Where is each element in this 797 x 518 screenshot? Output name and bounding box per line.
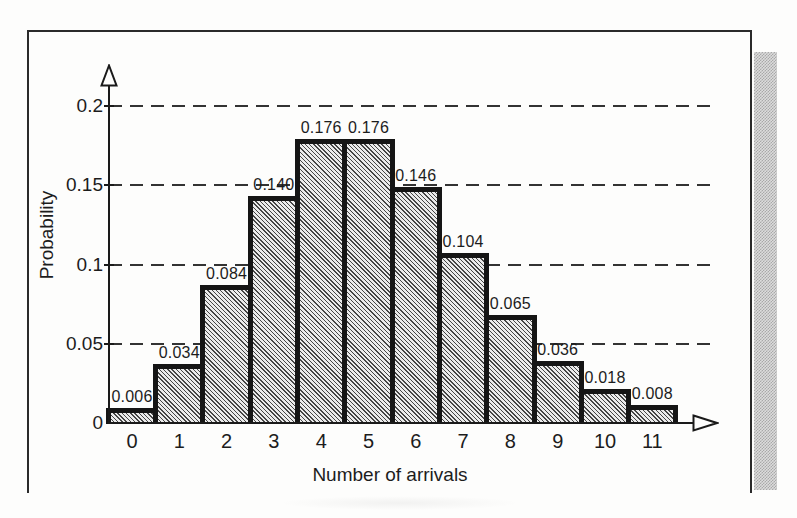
y-axis-tick-label: 0 [55, 413, 103, 432]
x-axis-tick-label: 5 [347, 430, 391, 452]
bar-8 [484, 315, 536, 424]
bar-3 [248, 196, 300, 424]
bar-6 [390, 187, 442, 424]
x-axis-tick-label: 0 [110, 430, 154, 452]
poisson-histogram-chart: Probability Number of arrivals 00.050.10… [0, 0, 797, 518]
x-axis-tick-label: 7 [441, 430, 485, 452]
y-axis-tick-label: 0.15 [55, 175, 103, 194]
x-axis-tick-label: 1 [157, 430, 201, 452]
y-axis-tick-label: 0.2 [55, 96, 103, 115]
x-axis-tick-label: 6 [394, 430, 438, 452]
y-axis-line [108, 78, 110, 424]
x-axis-title: Number of arrivals [290, 464, 490, 486]
y-axis-tick-mark [104, 343, 114, 345]
bar-value-label: 0.006 [100, 388, 164, 405]
bar-value-label: 0.176 [337, 119, 401, 136]
bar-value-label: 0.146 [384, 167, 448, 184]
y-axis-arrowhead-icon [100, 64, 118, 87]
bar-value-label: 0.065 [478, 295, 542, 312]
bar-value-label: 0.140 [242, 176, 306, 193]
x-axis-tick-label: 2 [205, 430, 249, 452]
x-axis-tick-label: 11 [630, 430, 674, 452]
y-axis-tick-label: 0.05 [55, 334, 103, 353]
bar-value-label: 0.008 [620, 385, 684, 402]
bar-value-label: 0.036 [526, 341, 590, 358]
x-axis-tick-label: 9 [536, 430, 580, 452]
x-axis-tick-label: 8 [488, 430, 532, 452]
y-axis-tick-mark [104, 105, 114, 107]
bar-value-label: 0.084 [195, 265, 259, 282]
x-axis-line [108, 422, 695, 424]
scanned-figure-page: { "figure": { "background_color": "#fdfd… [0, 0, 797, 518]
gridline-0.2 [109, 105, 718, 107]
y-axis-tick-mark [104, 184, 114, 186]
bar-value-label: 0.104 [431, 233, 495, 250]
y-axis-tick-mark [104, 264, 114, 266]
x-axis-tick-label: 10 [583, 430, 627, 452]
bar-7 [437, 253, 489, 424]
y-axis-tick-label: 0.1 [55, 255, 103, 274]
bar-value-label: 0.034 [147, 344, 211, 361]
x-axis-tick-label: 3 [252, 430, 296, 452]
x-axis-arrowhead-icon [692, 414, 719, 432]
x-axis-tick-label: 4 [299, 430, 343, 452]
bar-value-label: 0.018 [573, 369, 637, 386]
